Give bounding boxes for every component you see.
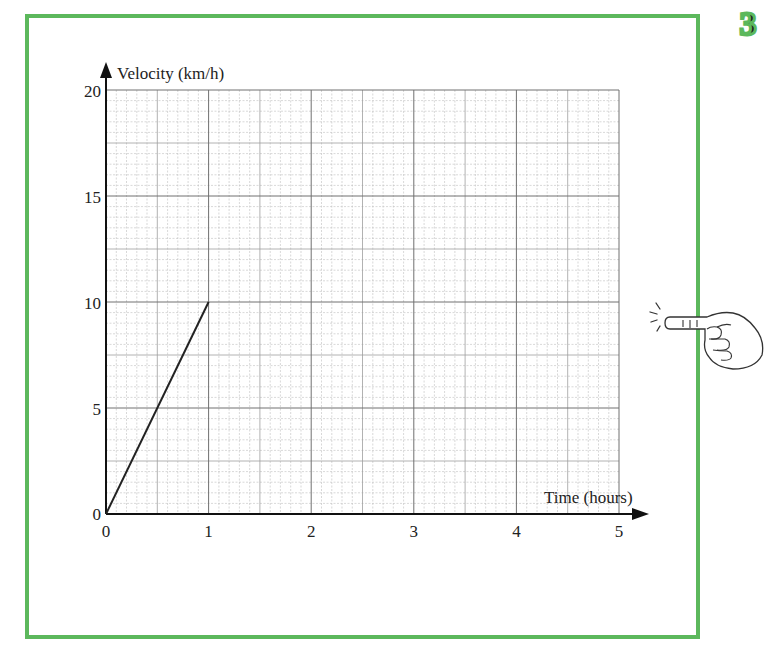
y-tick-10: 10 [84, 294, 101, 313]
x-tick-3: 3 [410, 522, 419, 541]
x-tick-2: 2 [307, 522, 316, 541]
y-axis-label: Velocity (km/h) [117, 64, 224, 83]
x-tick-5: 5 [615, 522, 624, 541]
y-axis-arrow-icon [100, 62, 112, 78]
x-axis-label: Time (hours) [544, 488, 633, 507]
x-axis-arrow-icon [632, 508, 649, 520]
x-tick-0: 0 [102, 522, 111, 541]
y-tick-0: 0 [93, 505, 102, 524]
velocity-time-chart: Velocity (km/h) Time (hours) 20 15 10 5 … [0, 0, 766, 647]
x-tick-1: 1 [204, 522, 213, 541]
y-tick-15: 15 [84, 188, 101, 207]
axes [106, 72, 636, 514]
y-tick-20: 20 [84, 82, 101, 101]
y-tick-5: 5 [93, 400, 102, 419]
x-tick-4: 4 [512, 522, 521, 541]
